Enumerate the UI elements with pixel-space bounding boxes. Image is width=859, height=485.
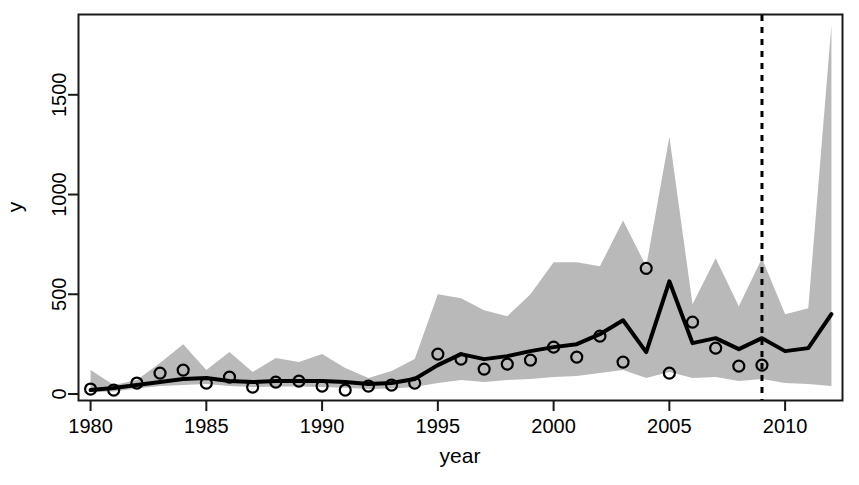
y-axis-title: y: [3, 201, 26, 212]
x-axis-ticks: [91, 400, 786, 411]
x-tick-label: 1985: [184, 415, 229, 437]
x-tick-label: 1980: [68, 415, 113, 437]
x-tick-label: 1990: [300, 415, 345, 437]
y-axis-tick-labels: 050010001500: [48, 73, 70, 400]
y-tick-label: 1500: [48, 73, 70, 118]
chart-figure: 1980198519901995200020052010 05001000150…: [0, 0, 859, 485]
x-axis-tick-labels: 1980198519901995200020052010: [68, 415, 807, 437]
x-tick-label: 2005: [647, 415, 692, 437]
y-tick-label: 500: [48, 278, 70, 311]
line-chart-with-confidence-ribbon: 1980198519901995200020052010 05001000150…: [0, 0, 859, 485]
y-tick-label: 1000: [48, 172, 70, 217]
x-tick-label: 2000: [531, 415, 576, 437]
y-axis-ticks: [68, 95, 79, 394]
x-tick-label: 1995: [416, 415, 461, 437]
x-tick-label: 2010: [763, 415, 808, 437]
y-tick-label: 0: [48, 388, 70, 399]
credible-interval-ribbon: [91, 25, 832, 392]
x-axis-title: year: [440, 444, 481, 467]
